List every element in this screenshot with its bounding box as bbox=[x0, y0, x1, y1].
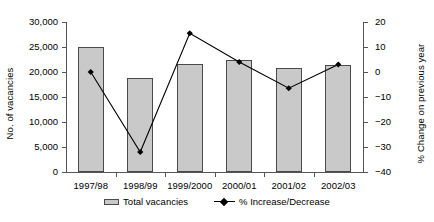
x-axis-tick bbox=[215, 172, 216, 177]
y-axis-left-tick-label: 25,000 bbox=[0, 42, 58, 52]
y-axis-right-tick-label: −40 bbox=[375, 167, 425, 177]
chart-legend: Total vacancies % Increase/Decrease bbox=[0, 196, 434, 207]
y-axis-left-tick-label: 10,000 bbox=[0, 117, 58, 127]
bar-swatch-icon bbox=[104, 199, 119, 205]
y-axis-right-tick bbox=[363, 22, 368, 23]
y-axis-right-tick bbox=[363, 147, 368, 148]
x-axis-tick bbox=[116, 172, 117, 177]
x-axis-label: 2001/02 bbox=[264, 181, 314, 191]
y-axis-left-tick-label: 5,000 bbox=[0, 142, 58, 152]
x-axis-tick bbox=[264, 172, 265, 177]
line-marker bbox=[137, 149, 143, 155]
x-axis-tick bbox=[165, 172, 166, 177]
line-marker bbox=[187, 30, 193, 36]
y-axis-left-tick-label: 20,000 bbox=[0, 67, 58, 77]
legend-label-total-vacancies: Total vacancies bbox=[123, 196, 188, 207]
line-series bbox=[66, 22, 363, 172]
y-axis-right-tick-label: −20 bbox=[375, 117, 425, 127]
y-axis-right-tick bbox=[363, 122, 368, 123]
line-marker-swatch-icon bbox=[214, 198, 235, 206]
line-marker bbox=[236, 59, 242, 65]
line-marker bbox=[88, 69, 94, 75]
y-axis-right-tick bbox=[363, 97, 368, 98]
plot-area: 05,00010,00015,00020,00025,00030,000 −40… bbox=[66, 22, 363, 172]
y-axis-right-tick-label: 10 bbox=[375, 42, 425, 52]
line-marker bbox=[335, 61, 341, 67]
y-axis-left-tick-label: 15,000 bbox=[0, 92, 58, 102]
y-axis-right-tick bbox=[363, 172, 368, 173]
y-axis-right-tick-label: 20 bbox=[375, 17, 425, 27]
x-axis-label: 2002/03 bbox=[314, 181, 364, 191]
x-axis-label: 2000/01 bbox=[215, 181, 265, 191]
legend-item-total-vacancies: Total vacancies bbox=[104, 196, 188, 207]
y-axis-right-tick bbox=[363, 47, 368, 48]
legend-item-increase-decrease: % Increase/Decrease bbox=[214, 196, 330, 207]
x-axis-label: 1997/98 bbox=[66, 181, 116, 191]
y-axis-left-tick bbox=[62, 172, 67, 173]
y-axis-right-tick-label: 0 bbox=[375, 67, 425, 77]
line-marker bbox=[286, 85, 292, 91]
y-axis-right-tick bbox=[363, 72, 368, 73]
line-path bbox=[91, 33, 339, 152]
x-axis-tick bbox=[314, 172, 315, 177]
x-axis-label: 1999/2000 bbox=[165, 181, 215, 191]
y-axis-right-tick-label: −10 bbox=[375, 92, 425, 102]
chart-container: No. of vacancies % Change on previous ye… bbox=[0, 0, 434, 222]
legend-label-increase-decrease: % Increase/Decrease bbox=[239, 196, 330, 207]
y-axis-left-tick-label: 30,000 bbox=[0, 17, 58, 27]
x-axis-label: 1998/99 bbox=[116, 181, 166, 191]
y-axis-right-tick-label: −30 bbox=[375, 142, 425, 152]
y-axis-left-tick-label: 0 bbox=[0, 167, 58, 177]
